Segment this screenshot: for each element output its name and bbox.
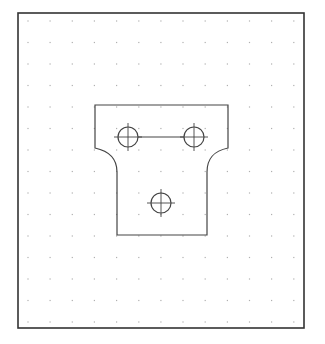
bracket-part[interactable] xyxy=(95,105,228,235)
grid-dot xyxy=(293,257,294,258)
grid-dot xyxy=(249,257,250,258)
grid-dot xyxy=(205,42,206,43)
grid-dot xyxy=(227,192,228,193)
grid-dot xyxy=(116,300,117,301)
grid-dot xyxy=(27,63,28,64)
grid-dot xyxy=(94,149,95,150)
grid-dot xyxy=(72,235,73,236)
grid-dot xyxy=(271,128,272,129)
grid-dot xyxy=(205,85,206,86)
grid-dot xyxy=(50,235,51,236)
grid-dot xyxy=(116,63,117,64)
grid-dot xyxy=(116,106,117,107)
grid-dot xyxy=(94,192,95,193)
grid-dot xyxy=(249,85,250,86)
grid-dot xyxy=(227,63,228,64)
grid-dot xyxy=(72,106,73,107)
hole-bottom[interactable] xyxy=(147,189,175,217)
grid-dot xyxy=(94,63,95,64)
grid-dot xyxy=(138,278,139,279)
grid-dot xyxy=(249,192,250,193)
grid-dot xyxy=(94,20,95,21)
grid-dot xyxy=(205,278,206,279)
grid-dot xyxy=(271,149,272,150)
grid-dot xyxy=(271,214,272,215)
grid-dot xyxy=(249,214,250,215)
grid-dot xyxy=(249,128,250,129)
grid-dot xyxy=(293,235,294,236)
grid-dot xyxy=(271,192,272,193)
grid-dot xyxy=(116,42,117,43)
grid-dot xyxy=(271,235,272,236)
grid-dot xyxy=(116,257,117,258)
grid-dot xyxy=(182,321,183,322)
grid-dot xyxy=(72,149,73,150)
grid-dot xyxy=(27,235,28,236)
grid-dot xyxy=(27,214,28,215)
grid-dot xyxy=(249,63,250,64)
grid-dot xyxy=(160,85,161,86)
grid-dot xyxy=(249,149,250,150)
grid-dot xyxy=(72,85,73,86)
grid-dot xyxy=(138,300,139,301)
grid-dot xyxy=(94,235,95,236)
grid-dot xyxy=(72,63,73,64)
grid-dot xyxy=(205,171,206,172)
grid-dot xyxy=(116,149,117,150)
hole-top-right[interactable] xyxy=(180,123,208,151)
grid-dot xyxy=(160,128,161,129)
grid-dot xyxy=(27,171,28,172)
grid-dot xyxy=(227,85,228,86)
grid-dot xyxy=(160,20,161,21)
grid-dot xyxy=(205,321,206,322)
grid-dot xyxy=(182,20,183,21)
grid-dot xyxy=(293,214,294,215)
grid-dot xyxy=(116,85,117,86)
grid-dot xyxy=(72,20,73,21)
grid-dot xyxy=(293,300,294,301)
grid-dot xyxy=(160,42,161,43)
grid-dot xyxy=(160,149,161,150)
grid-dot xyxy=(249,106,250,107)
grid-dot xyxy=(50,214,51,215)
grid-dot xyxy=(94,278,95,279)
grid-dot xyxy=(271,321,272,322)
grid-dot xyxy=(205,128,206,129)
grid-dots xyxy=(27,20,294,322)
grid-dot xyxy=(160,106,161,107)
grid-dot xyxy=(50,192,51,193)
grid-dot xyxy=(249,42,250,43)
drawing-canvas[interactable] xyxy=(0,0,325,344)
grid-dot xyxy=(138,321,139,322)
grid-dot xyxy=(94,171,95,172)
grid-dot xyxy=(27,321,28,322)
grid-dot xyxy=(50,278,51,279)
grid-dot xyxy=(227,257,228,258)
grid-dot xyxy=(293,278,294,279)
grid-dot xyxy=(50,171,51,172)
grid-dot xyxy=(227,20,228,21)
grid-dot xyxy=(182,106,183,107)
grid-dot xyxy=(27,20,28,21)
grid-dot xyxy=(138,214,139,215)
grid-dot xyxy=(227,300,228,301)
grid-dot xyxy=(160,257,161,258)
grid-dot xyxy=(72,128,73,129)
grid-dot xyxy=(182,63,183,64)
grid-dot xyxy=(182,278,183,279)
grid-dot xyxy=(205,106,206,107)
grid-dot xyxy=(249,235,250,236)
part-outline[interactable] xyxy=(95,105,228,235)
grid-dot xyxy=(293,149,294,150)
grid-dot xyxy=(249,20,250,21)
grid-dot xyxy=(249,171,250,172)
grid-dot xyxy=(293,106,294,107)
grid-dot xyxy=(94,85,95,86)
grid-dot xyxy=(50,20,51,21)
grid-dot xyxy=(182,171,183,172)
hole-top-left[interactable] xyxy=(114,123,142,151)
grid-dot xyxy=(72,278,73,279)
grid-dot xyxy=(27,106,28,107)
grid-dot xyxy=(205,20,206,21)
grid-dot xyxy=(293,20,294,21)
